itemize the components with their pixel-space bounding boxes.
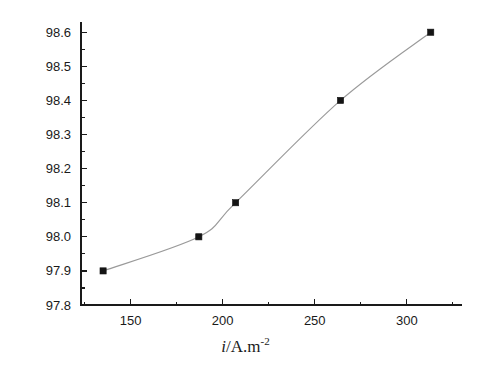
chart-figure: 97.897.998.098.198.298.398.498.598.6 150…	[0, 0, 491, 376]
y-axis-major-ticks	[81, 32, 87, 305]
x-axis-tick-labels: 150200250300	[120, 313, 418, 328]
data-point-marker	[196, 234, 202, 240]
x-tick-label: 150	[120, 313, 142, 328]
x-tick-label: 250	[304, 313, 326, 328]
x-tick-label: 200	[212, 313, 234, 328]
x-axis-exponent: -2	[261, 335, 270, 347]
axis-frame	[81, 22, 462, 305]
y-tick-label: 98.3	[46, 127, 71, 142]
data-point-marker	[428, 29, 434, 35]
y-tick-label: 98.6	[46, 25, 71, 40]
x-axis-unit: /A.m	[226, 337, 260, 356]
y-tick-label: 98.0	[46, 229, 71, 244]
x-axis-title: i/A.m-2	[0, 337, 491, 357]
data-point-marker	[233, 200, 239, 206]
data-point-marker	[100, 268, 106, 274]
data-point-marker	[337, 97, 343, 103]
y-tick-label: 97.8	[46, 298, 71, 313]
y-tick-label: 98.1	[46, 195, 71, 210]
y-tick-label: 98.5	[46, 59, 71, 74]
chart-plot-area: 97.897.998.098.198.298.398.498.598.6 150…	[0, 0, 491, 376]
y-axis-tick-labels: 97.897.998.098.198.298.398.498.598.6	[46, 25, 71, 313]
y-tick-label: 97.9	[46, 263, 71, 278]
y-tick-label: 98.2	[46, 161, 71, 176]
data-series-line	[103, 32, 431, 271]
y-tick-label: 98.4	[46, 93, 71, 108]
x-tick-label: 300	[396, 313, 418, 328]
